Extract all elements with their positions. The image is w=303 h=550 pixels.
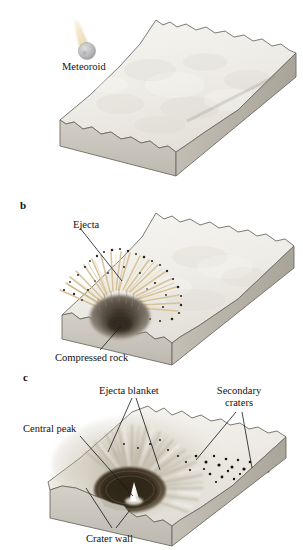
- ground-slab-c: [48, 406, 286, 546]
- central-peak-label: Central peak: [23, 423, 77, 434]
- ejecta-label: Ejecta: [73, 219, 100, 230]
- panel-letter-b: b: [20, 200, 26, 211]
- meteoroid-label: Meteoroid: [62, 61, 106, 72]
- panel-c-illustration: Ejecta blanket Secondary craters Central…: [0, 370, 303, 550]
- compressed-rock-label: Compressed rock: [55, 352, 129, 363]
- meteoroid-icon: [78, 42, 95, 59]
- secondary-craters-label-line2: craters: [225, 397, 253, 408]
- panel-c: Ejecta blanket Secondary craters Central…: [0, 370, 303, 550]
- crater-wall-label: Crater wall: [86, 533, 133, 544]
- panel-b-illustration: Ejecta Compressed rock: [0, 195, 303, 370]
- ground-slab-a: [60, 20, 296, 176]
- ejecta-blanket-label: Ejecta blanket: [99, 385, 159, 396]
- panel-a-illustration: Meteoroid: [0, 0, 303, 195]
- panel-letter-c: c: [23, 372, 28, 383]
- secondary-craters-label-line1: Secondary: [217, 385, 262, 396]
- panel-a: Meteoroid: [0, 0, 303, 195]
- panel-b: Ejecta Compressed rock b: [0, 195, 303, 370]
- impact-crater-figure: Meteoroid: [0, 0, 303, 550]
- ground-slab-b: [62, 213, 294, 365]
